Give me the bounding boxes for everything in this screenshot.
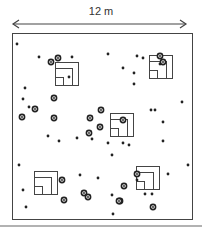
point-marker xyxy=(18,164,21,167)
point-marker xyxy=(162,121,165,124)
point-marker xyxy=(71,56,74,59)
point-marker xyxy=(24,87,27,90)
quadrat-q5 xyxy=(137,167,160,190)
point-marker xyxy=(162,140,165,143)
point-marker xyxy=(136,55,139,58)
point-marker xyxy=(133,83,136,86)
diagram-canvas xyxy=(0,0,202,230)
point-marker xyxy=(150,109,153,112)
point-marker xyxy=(133,72,136,75)
quadrats xyxy=(35,56,173,195)
point-marker xyxy=(122,142,125,145)
point-marker xyxy=(16,43,19,46)
point-marker xyxy=(22,98,25,101)
point-marker xyxy=(111,154,114,157)
point-marker xyxy=(58,140,61,143)
point-marker xyxy=(97,177,100,180)
point-marker xyxy=(122,67,125,70)
point-marker xyxy=(142,57,145,60)
plot-diagram: 12 m xyxy=(0,0,202,230)
point-marker xyxy=(128,144,131,147)
point-marker xyxy=(107,53,110,56)
point-marker xyxy=(111,194,114,197)
point-marker xyxy=(144,193,147,196)
point-marker xyxy=(187,164,190,167)
quadrat-q4 xyxy=(35,172,58,195)
point-marker xyxy=(151,193,154,196)
point-marker xyxy=(79,174,82,177)
point-marker xyxy=(167,173,170,176)
point-marker xyxy=(22,189,25,192)
point-marker xyxy=(47,135,50,138)
point-marker xyxy=(154,109,157,112)
scale-arrow xyxy=(13,20,186,28)
point-marker xyxy=(91,138,94,141)
point-marker xyxy=(76,137,79,140)
quadrat-q1 xyxy=(56,63,79,86)
point-marker xyxy=(38,56,41,59)
point-marker xyxy=(25,206,28,209)
point-marker xyxy=(181,101,184,104)
point-marker xyxy=(112,213,115,216)
point-marker xyxy=(107,142,110,145)
points xyxy=(16,43,190,216)
point-marker xyxy=(68,76,71,79)
point-marker xyxy=(136,179,139,182)
point-marker xyxy=(28,106,31,109)
